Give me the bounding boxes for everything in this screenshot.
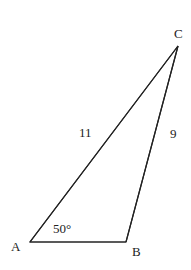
angle-label-a: 50° bbox=[53, 221, 71, 236]
side-length-ac: 11 bbox=[79, 125, 92, 140]
side-length-bc: 9 bbox=[170, 126, 177, 141]
vertex-label-b: B bbox=[132, 244, 141, 259]
vertex-label-c: C bbox=[174, 26, 183, 41]
triangle-diagram: A B C 11 9 50° bbox=[0, 0, 191, 270]
background bbox=[0, 0, 191, 270]
vertex-label-a: A bbox=[11, 239, 21, 254]
